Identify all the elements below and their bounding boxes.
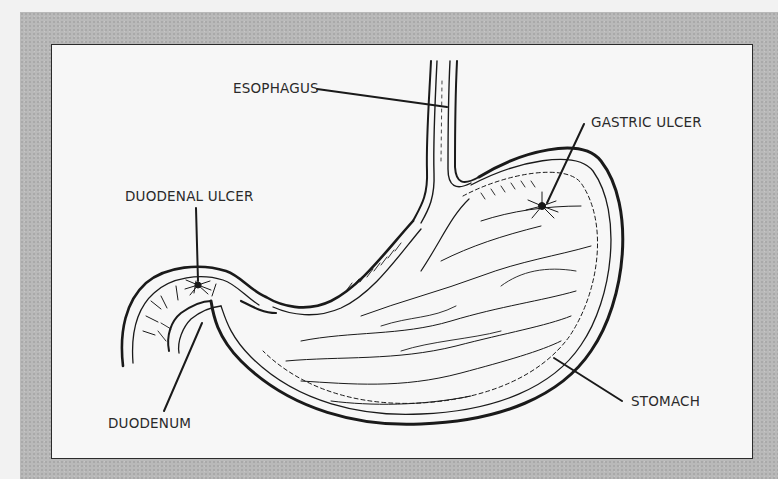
duodenal-ulcer-leader-line — [196, 208, 198, 281]
label-stomach: STOMACH — [631, 395, 700, 409]
label-duodenum: DUODENUM — [108, 417, 191, 431]
duodenal-ulcer-spot — [185, 280, 211, 295]
label-gastric-ulcer: GASTRIC ULCER — [591, 116, 702, 130]
gastric-ulcer-spot — [526, 192, 558, 218]
label-esophagus: ESOPHAGUS — [233, 82, 319, 96]
label-duodenal-ulcer: DUODENAL ULCER — [125, 190, 254, 204]
stomach-drawing — [211, 148, 623, 424]
leader-lines — [164, 89, 622, 411]
esophagus-leader-line — [317, 89, 447, 107]
gastric-ulcer-leader-line — [547, 124, 584, 203]
duodenum-leader-line — [164, 323, 202, 411]
